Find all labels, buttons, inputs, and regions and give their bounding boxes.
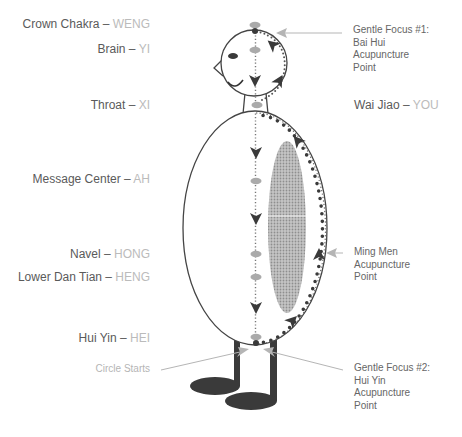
label-circle-starts: Circle Starts: [96, 363, 150, 374]
right-leg: [270, 336, 277, 401]
label-name: Navel: [70, 247, 101, 261]
head: [221, 30, 287, 96]
label-separator: –: [99, 17, 112, 31]
label-separator: –: [101, 247, 114, 261]
label-brain: Brain – YI: [98, 42, 150, 56]
annotation-line: Acupuncture: [353, 49, 410, 60]
annotation-line: Ming Men: [354, 246, 398, 257]
stippled-energy-oval: [268, 141, 306, 313]
right-foot: [225, 392, 277, 410]
annotation-line: Point: [354, 400, 377, 411]
label-separator: –: [121, 172, 134, 186]
label-name: Hui Yin: [79, 331, 117, 345]
annotation-bai-hui: Gentle Focus #1: Bai Hui Acupuncture Poi…: [353, 24, 432, 73]
legs: [190, 336, 277, 410]
microcosmic-orbit-diagram: Crown Chakra – WENG Brain – YI Throat – …: [0, 0, 462, 437]
label-name: Message Center: [33, 172, 121, 186]
throat-point: [252, 102, 263, 108]
label-message-center: Message Center – AH: [33, 172, 150, 186]
label-separator: –: [400, 98, 413, 112]
label-sound: WENG: [113, 17, 150, 31]
annotation-line: Hui Yin: [354, 375, 386, 386]
label-wai-jiao: Wai Jiao – YOU: [354, 98, 439, 112]
annotation-line: Gentle Focus #2:: [354, 362, 430, 373]
left-labels: Crown Chakra – WENG Brain – YI Throat – …: [18, 17, 150, 374]
label-separator: –: [125, 98, 138, 112]
crown-point: [250, 22, 261, 28]
annotation-ming-men: Ming Men Acupuncture Point: [354, 246, 413, 282]
label-lower-dan-tian: Lower Dan Tian – HENG: [18, 270, 150, 284]
label-throat: Throat – XI: [91, 98, 150, 112]
label-separator: –: [117, 331, 130, 345]
navel-point: [251, 251, 262, 257]
label-name: Brain: [98, 42, 126, 56]
right-labels: Gentle Focus #1: Bai Hui Acupuncture Poi…: [353, 24, 439, 411]
label-name: Crown Chakra: [23, 17, 100, 31]
annotation-line: Gentle Focus #1:: [353, 24, 429, 35]
label-name: Throat: [91, 98, 126, 112]
label-sound: AH: [133, 172, 150, 186]
left-leg: [234, 336, 240, 386]
label-sound: XI: [139, 98, 150, 112]
label-navel: Navel – HONG: [70, 247, 150, 261]
hui-yin-focus-pointer-line: [272, 352, 343, 370]
annotation-line: Bai Hui: [353, 37, 385, 48]
eye: [228, 53, 238, 59]
annotation-line: Point: [353, 62, 376, 73]
label-sound: HONG: [114, 247, 150, 261]
hui-yin-dot: [253, 340, 259, 346]
annotation-line: Point: [354, 271, 377, 282]
label-crown-chakra: Crown Chakra – WENG: [23, 17, 150, 31]
annotation-line: Acupuncture: [354, 387, 411, 398]
lower-dan-tian-point: [251, 274, 262, 280]
label-sound: HEI: [130, 331, 150, 345]
label-name: Wai Jiao: [354, 98, 400, 112]
label-separator: –: [126, 42, 139, 56]
label-sound: YOU: [413, 98, 439, 112]
annotation-hui-yin-focus: Gentle Focus #2: Hui Yin Acupuncture Poi…: [354, 362, 433, 411]
left-foot: [190, 377, 240, 395]
circle-starts-pointer-line: [161, 352, 240, 370]
message-center-point: [251, 178, 262, 184]
bai-hui-dot: [252, 28, 258, 34]
label-separator: –: [102, 270, 115, 284]
label-sound: HENG: [115, 270, 150, 284]
annotation-line: Acupuncture: [354, 259, 411, 270]
hui-yin-point: [251, 334, 262, 340]
brain-point: [250, 47, 261, 53]
label-name: Lower Dan Tian: [18, 270, 102, 284]
label-sound: YI: [139, 42, 150, 56]
label-hui-yin: Hui Yin – HEI: [79, 331, 150, 345]
